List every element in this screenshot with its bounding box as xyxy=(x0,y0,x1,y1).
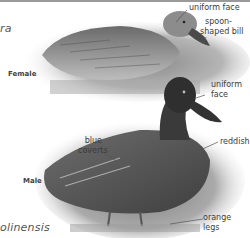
annotation-line: orange xyxy=(203,213,231,223)
annotation-male-reddish: reddish xyxy=(220,137,250,146)
annotation-line: uniform xyxy=(211,80,242,90)
male-label: Male xyxy=(23,177,42,185)
scientific-name-bottom: olinensis xyxy=(0,221,50,234)
annotation-line: blue xyxy=(78,136,102,146)
annotation-line: coverts xyxy=(78,146,102,156)
annotation-line: legs xyxy=(203,223,231,233)
annotation-line: spoon- xyxy=(200,17,244,27)
annotation-male-orange-legs: orange legs xyxy=(203,213,231,233)
annotation-line: shaped bill xyxy=(200,27,244,37)
annotation-female-uniform-face: uniform face xyxy=(189,3,240,12)
annotation-male-blue-coverts: blue coverts xyxy=(78,136,102,156)
annotation-male-uniform-face: uniform face xyxy=(211,80,242,100)
annotation-line: face xyxy=(211,90,242,100)
scientific-name-top: ra xyxy=(0,22,12,35)
annotation-female-bill: spoon- shaped bill xyxy=(200,17,244,37)
female-label: Female xyxy=(8,70,36,78)
